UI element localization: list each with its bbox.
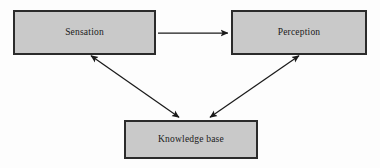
edge-sensation-knowledge-base [91, 56, 179, 118]
node-perception-label: Perception [278, 28, 321, 38]
node-sensation-label: Sensation [65, 28, 104, 38]
node-knowledge-base-label: Knowledge base [158, 135, 224, 145]
diagram-canvas: Sensation Perception Knowledge base [0, 0, 380, 168]
edge-perception-knowledge-base [210, 56, 299, 118]
node-knowledge-base: Knowledge base [124, 120, 258, 159]
node-sensation: Sensation [13, 10, 156, 55]
node-perception: Perception [231, 10, 367, 55]
